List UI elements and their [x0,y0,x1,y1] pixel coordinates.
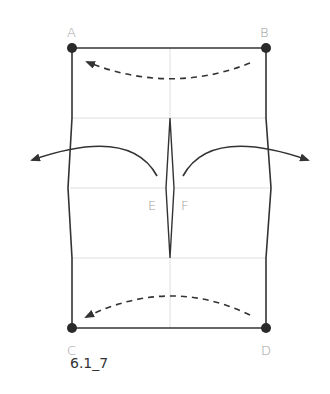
point-B-dot [261,43,271,53]
arrow-unfold-left [32,146,157,176]
arrow-unfold-right [183,146,308,176]
arrow-fold-D-to-C [86,296,250,317]
arrow-fold-B-to-A [87,62,250,79]
label-A: A [67,25,76,40]
label-F: F [181,198,188,213]
point-D-dot [261,323,271,333]
label-E: E [148,198,156,213]
folding-diagram [0,0,330,394]
point-C-dot [67,323,77,333]
label-D: D [261,343,271,358]
label-B: B [260,25,269,40]
center-slit [166,118,174,258]
crease-lines [70,48,270,328]
figure-caption: 6.1_7 [70,355,108,371]
point-A-dot [67,43,77,53]
